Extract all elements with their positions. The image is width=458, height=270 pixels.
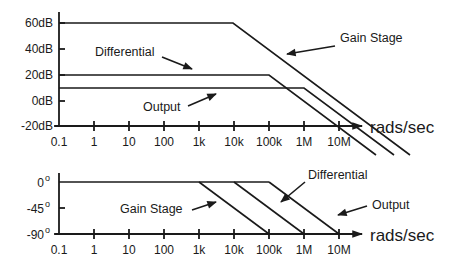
x-label: 10 xyxy=(122,243,136,257)
magnitude-y-labels: 60dB 40dB 20dB 0dB -20dB xyxy=(21,16,53,133)
phase-plot: 0 o -45 o -90 o 0.1 1 10 100 1k 10k 100k… xyxy=(27,168,435,257)
bode-diagram: 60dB 40dB 20dB 0dB -20dB 0.1 1 10 100 1k… xyxy=(0,0,458,270)
annotation-output: Output xyxy=(143,100,181,114)
y-label-0db: 0dB xyxy=(32,94,53,108)
phase-arrow-gain-stage xyxy=(192,202,216,210)
phase-arrow-output xyxy=(338,206,367,215)
y-label-minus45deg: -45 xyxy=(27,202,45,216)
arrow-gain-stage xyxy=(287,46,335,54)
x-label: 100k xyxy=(256,135,283,149)
phase-curve-differential xyxy=(234,182,304,234)
phase-curve-gain-stage xyxy=(199,182,269,234)
magnitude-plot: 60dB 40dB 20dB 0dB -20dB 0.1 1 10 100 1k… xyxy=(21,12,435,155)
x-label: 1k xyxy=(193,243,207,257)
degree-symbol: o xyxy=(45,173,50,183)
phase-curve-output xyxy=(269,182,339,234)
y-label-20db: 20dB xyxy=(25,68,53,82)
y-label-60db: 60dB xyxy=(25,16,53,30)
x-label: 1 xyxy=(91,135,98,149)
x-label: 0.1 xyxy=(51,243,68,257)
x-label: 10k xyxy=(224,135,244,149)
phase-annotation-output: Output xyxy=(372,198,410,212)
x-label: 100k xyxy=(256,243,283,257)
arrow-differential xyxy=(162,57,192,69)
magnitude-x-labels: 0.1 1 10 100 1k 10k 100k 1M 10M xyxy=(51,135,351,149)
x-label: 10M xyxy=(327,243,350,257)
phase-annotation-differential: Differential xyxy=(308,168,368,182)
arrow-output xyxy=(188,94,216,106)
annotation-gain-stage: Gain Stage xyxy=(340,31,403,45)
magnitude-x-unit: rads/sec xyxy=(370,118,435,137)
x-label: 10M xyxy=(327,135,350,149)
x-label: 1 xyxy=(91,243,98,257)
x-label: 1k xyxy=(193,135,207,149)
x-label: 100 xyxy=(154,135,174,149)
y-label-minus90deg: -90 xyxy=(27,228,45,242)
degree-symbol: o xyxy=(45,225,50,235)
x-label: 100 xyxy=(154,243,174,257)
annotation-differential: Differential xyxy=(95,45,155,59)
degree-symbol: o xyxy=(45,199,50,209)
y-label-minus20db: -20dB xyxy=(21,119,53,133)
phase-annotation-gain-stage: Gain Stage xyxy=(120,202,183,216)
phase-x-unit: rads/sec xyxy=(370,226,435,245)
y-label-40db: 40dB xyxy=(25,42,53,56)
x-label: 10 xyxy=(122,135,136,149)
x-label: 1M xyxy=(296,135,313,149)
x-label: 10k xyxy=(224,243,244,257)
x-label: 0.1 xyxy=(51,135,68,149)
x-label: 1M xyxy=(296,243,313,257)
y-label-0deg: 0 xyxy=(37,176,44,190)
phase-y-labels: 0 o -45 o -90 o xyxy=(27,173,50,242)
phase-x-labels: 0.1 1 10 100 1k 10k 100k 1M 10M xyxy=(51,243,351,257)
